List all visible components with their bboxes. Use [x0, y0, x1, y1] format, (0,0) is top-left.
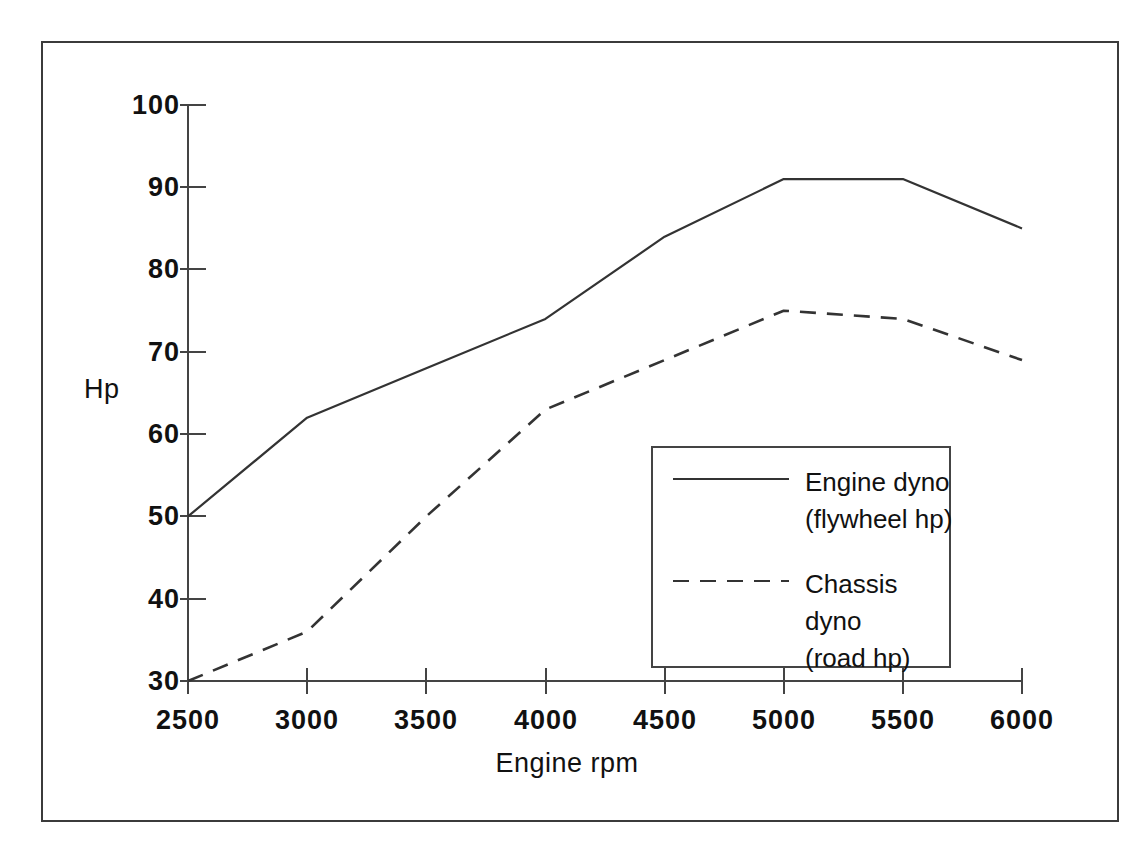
y-tick-label-40: 40: [96, 584, 180, 615]
chart-legend: Engine dyno (flywheel hp) Chassis dyno (…: [651, 446, 951, 668]
x-tick-label-5000: 5000: [724, 705, 844, 736]
y-tick-label-50: 50: [96, 501, 180, 532]
chart-figure: 100 90 80 70 60 50 40 30 2500 3000 3500 …: [0, 0, 1134, 859]
legend-swatch-dashed-line-icon: [673, 580, 789, 582]
x-axis-title: Engine rpm: [0, 748, 1134, 779]
y-tick-label-90: 90: [96, 172, 180, 203]
x-tick-label-5500: 5500: [843, 705, 963, 736]
x-tick-label-4000: 4000: [486, 705, 606, 736]
legend-entry-chassis-dyno: Chassis dyno (road hp): [653, 566, 953, 652]
x-tick-label-3500: 3500: [366, 705, 486, 736]
legend-label-chassis-dyno: Chassis dyno (road hp): [805, 566, 953, 677]
legend-label-engine-dyno: Engine dyno (flywheel hp): [805, 464, 952, 538]
x-tick-label-2500: 2500: [128, 705, 248, 736]
y-tick-label-30: 30: [96, 666, 180, 697]
x-tick-label-3000: 3000: [247, 705, 367, 736]
y-tick-marks: [180, 105, 206, 681]
x-tick-label-6000: 6000: [962, 705, 1082, 736]
y-tick-label-70: 70: [96, 337, 180, 368]
x-tick-label-4500: 4500: [605, 705, 725, 736]
y-axis-title: Hp: [84, 374, 120, 405]
legend-entry-engine-dyno: Engine dyno (flywheel hp): [653, 464, 953, 550]
y-tick-label-80: 80: [96, 254, 180, 285]
legend-swatch-solid-line-icon: [673, 478, 789, 480]
y-tick-label-60: 60: [96, 419, 180, 450]
y-tick-label-100: 100: [96, 90, 180, 121]
